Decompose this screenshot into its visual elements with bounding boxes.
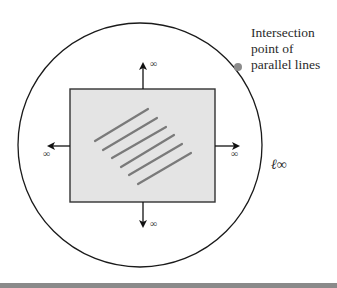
intersection-point-dot	[234, 63, 242, 71]
infinity-label-down: ∞	[150, 218, 157, 229]
infinity-label-up: ∞	[150, 58, 157, 69]
infinity-label-right: ∞	[231, 148, 238, 159]
callout-line-2: point of	[251, 41, 320, 57]
callout-line-1: Intersection	[251, 25, 320, 41]
plane-rectangle	[70, 89, 215, 202]
infinity-label-left: ∞	[43, 148, 50, 159]
line-at-infinity-label: ℓ∞	[271, 157, 287, 173]
intersection-callout: Intersection point of parallel lines	[251, 25, 320, 73]
bottom-divider-bar	[0, 283, 337, 288]
callout-line-3: parallel lines	[251, 57, 320, 73]
